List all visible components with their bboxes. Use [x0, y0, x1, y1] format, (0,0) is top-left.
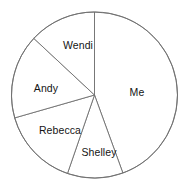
pie-chart: MeShelleyRebeccaAndyWendi — [0, 0, 184, 190]
corner-mark — [174, 0, 182, 6]
pie-label-andy: Andy — [34, 83, 58, 94]
pie-label-me: Me — [130, 87, 145, 98]
pie-chart-svg — [0, 0, 184, 190]
pie-label-shelley: Shelley — [81, 147, 116, 158]
pie-label-rebecca: Rebecca — [39, 125, 81, 136]
pie-label-wendi: Wendi — [63, 40, 93, 51]
